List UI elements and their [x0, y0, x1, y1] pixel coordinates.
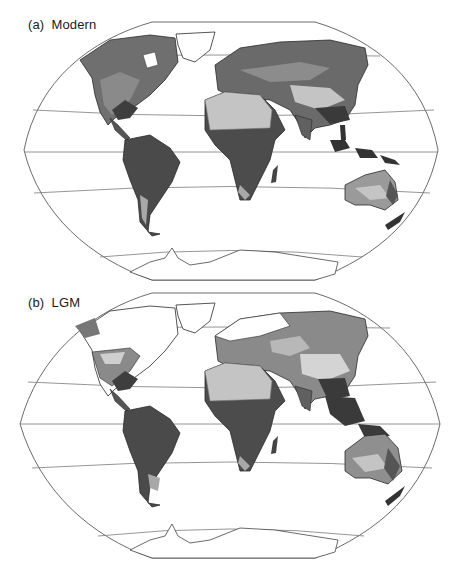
world-map-modern — [0, 0, 463, 286]
panel-label-lgm: (b) LGM — [28, 295, 80, 310]
panel-modern: (a) Modern — [0, 0, 463, 286]
panel-label-modern: (a) Modern — [28, 17, 96, 32]
panel-lgm: (b) LGM — [0, 286, 463, 573]
world-map-lgm — [0, 286, 463, 573]
